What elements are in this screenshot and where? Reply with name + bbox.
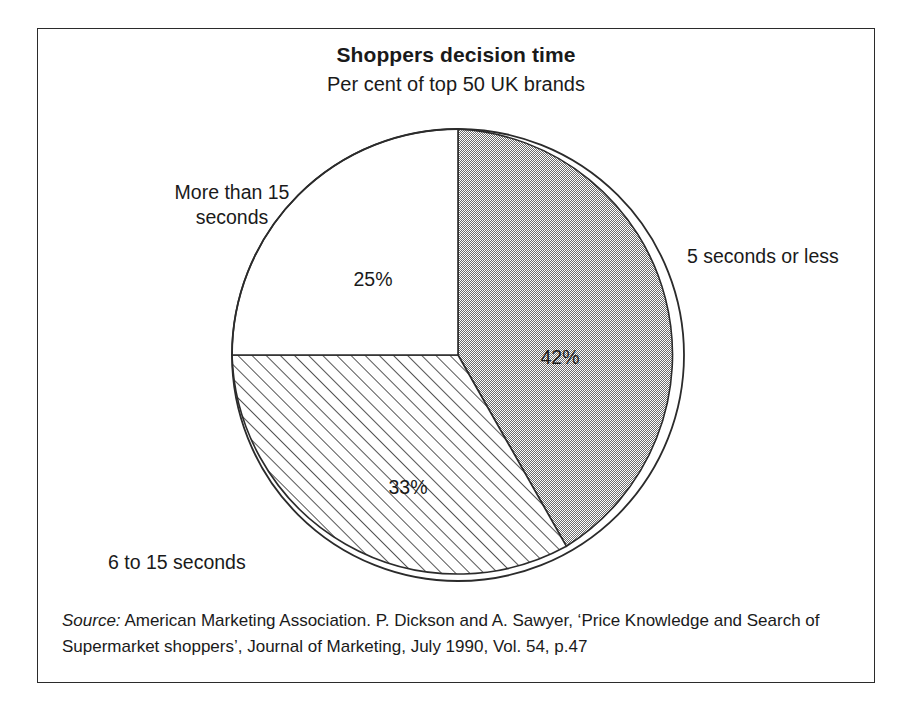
- source-label: Source:: [62, 611, 121, 630]
- pie-value-6-to-15-seconds: 33%: [368, 476, 448, 499]
- figure-frame: Shoppers decision time Per cent of top 5…: [37, 28, 875, 683]
- pie-value-5-seconds-or-less: 42%: [520, 346, 600, 369]
- source-text: American Marketing Association. P. Dicks…: [62, 611, 820, 656]
- pie-label-6-to-15-seconds: 6 to 15 seconds: [108, 550, 338, 575]
- source-note: Source: American Marketing Association. …: [62, 608, 852, 660]
- pie-chart-svg: [38, 29, 876, 684]
- pie-slice-more-than-15-seconds: [232, 129, 458, 355]
- pie-value-more-than-15-seconds: 25%: [333, 268, 413, 291]
- pie-label-more-than-15-seconds: More than 15 seconds: [137, 180, 327, 230]
- pie-label-5-seconds-or-less: 5 seconds or less: [687, 244, 897, 269]
- pie-chart: [38, 29, 876, 684]
